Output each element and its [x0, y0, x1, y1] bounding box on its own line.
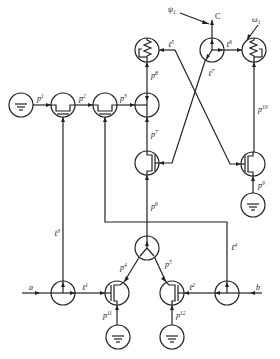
valve-node [51, 93, 75, 117]
label-p6: p6 [150, 201, 158, 211]
transistor-node [105, 281, 129, 305]
label-p1: p1 [36, 93, 44, 103]
label-p12: p12 [175, 310, 186, 320]
ground-node [106, 325, 130, 349]
junction-node [51, 281, 75, 305]
label-p7: p7 [150, 129, 158, 139]
junction-node [215, 281, 239, 305]
port-a-label: a [29, 283, 33, 292]
ground-node [160, 325, 184, 349]
label-e5: ℓ5 [168, 39, 174, 49]
label-p9: p9 [257, 180, 265, 190]
label-p11: p11 [102, 310, 112, 320]
three-way-junction-node [135, 236, 159, 260]
ground-node [9, 93, 33, 117]
label-e6: ℓ6 [226, 39, 232, 49]
valve-node [93, 93, 117, 117]
ground-node [241, 193, 265, 217]
label-p5: p5 [164, 259, 172, 269]
label-p3: p3 [119, 93, 127, 103]
transistor-node [135, 151, 159, 175]
label-e7: ℓ7 [208, 68, 214, 78]
junction-node [135, 93, 159, 117]
resistor-node [135, 38, 159, 62]
psi-label: ψ1 [168, 5, 176, 15]
port-c-label: C [215, 12, 220, 21]
resistor-node [242, 38, 266, 62]
transistor-node [241, 152, 265, 176]
label-p8: p8 [150, 70, 158, 80]
label-p10: p10 [257, 104, 268, 114]
label-e4: ℓ4 [231, 242, 237, 252]
network-diagram: a b C ψ1 ω1 p1 p2 p3 p8 p7 p6 p10 p9 p4 … [0, 0, 280, 359]
transistor-node [160, 281, 184, 305]
omega-label: ω1 [252, 15, 261, 25]
label-e3: ℓ3 [54, 228, 60, 238]
label-p2: p2 [78, 93, 86, 103]
label-p4: p4 [119, 262, 127, 272]
label-e2: ℓ2 [189, 282, 195, 292]
three-way-junction-node [200, 38, 224, 62]
port-b-label: b [256, 283, 260, 292]
label-e1: ℓ1 [82, 282, 88, 292]
